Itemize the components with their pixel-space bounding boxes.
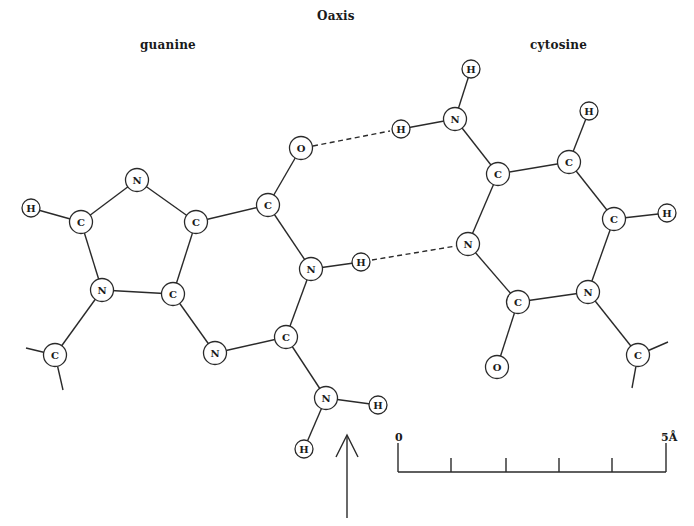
atom-symbol: C bbox=[264, 200, 272, 211]
hydrogen-bonds bbox=[313, 131, 456, 260]
atom-c-c_c2: C bbox=[507, 291, 530, 314]
hbond-h1-n3 bbox=[372, 246, 456, 260]
atom-h-c_h4a: H bbox=[462, 60, 480, 78]
atom-symbol: C bbox=[192, 217, 200, 228]
atom-c-g_c6: C bbox=[257, 194, 280, 217]
atom-symbol: H bbox=[299, 444, 308, 455]
atom-symbol: N bbox=[306, 264, 315, 275]
atom-h-g_h1: H bbox=[352, 253, 370, 271]
scale-end-label: 5Å bbox=[661, 430, 678, 444]
cytosine-label: cytosine bbox=[530, 38, 587, 52]
atom-symbol: N bbox=[583, 287, 592, 298]
atom-symbol: H bbox=[373, 400, 382, 411]
atom-symbol: C bbox=[565, 157, 573, 168]
atom-h-c_h4b: H bbox=[392, 120, 410, 138]
atom-symbol: H bbox=[584, 106, 593, 117]
hbond-o6-h4 bbox=[313, 131, 390, 146]
guanine-atoms: HCNCCONCNHNCNHHC bbox=[22, 137, 387, 459]
atom-c-g_c1p: C bbox=[44, 344, 67, 367]
atom-c-c_c5: C bbox=[558, 151, 581, 174]
atom-symbol: N bbox=[97, 285, 106, 296]
cytosine-atoms: HNHCCHCHNCNOC bbox=[392, 60, 676, 379]
guanine-cytosine-diagram: HCNCCONCNHNCNHHC HNHCCHCHNCNOC 0 5Å bbox=[0, 0, 694, 526]
atom-n-g_n3: N bbox=[204, 342, 227, 365]
atom-symbol: H bbox=[466, 64, 475, 75]
atom-symbol: N bbox=[463, 239, 472, 250]
atom-symbol: H bbox=[396, 124, 405, 135]
atom-h-c_h5: H bbox=[580, 102, 598, 120]
atom-n-g_n1: N bbox=[300, 258, 323, 281]
axis-label: Oaxis bbox=[317, 9, 355, 23]
atom-n-c_n1: N bbox=[577, 281, 600, 304]
atom-n-g_n2: N bbox=[315, 387, 338, 410]
axis-arrow bbox=[336, 435, 358, 518]
atom-c-g_c5: C bbox=[185, 211, 208, 234]
atom-symbol: N bbox=[321, 393, 330, 404]
scale-bar: 0 5Å bbox=[395, 430, 678, 472]
atom-symbol: C bbox=[77, 217, 85, 228]
atom-c-c_c6: C bbox=[603, 208, 626, 231]
atom-c-g_c8: C bbox=[70, 211, 93, 234]
atom-symbol: C bbox=[51, 350, 59, 361]
scale-start-label: 0 bbox=[395, 431, 403, 444]
atom-h-c_h6: H bbox=[658, 204, 676, 222]
atom-symbol: C bbox=[514, 297, 522, 308]
atom-n-g_n9: N bbox=[91, 279, 114, 302]
atom-symbol: O bbox=[493, 362, 502, 373]
atom-symbol: H bbox=[662, 208, 671, 219]
atom-symbol: H bbox=[356, 257, 365, 268]
cytosine-bonds bbox=[401, 69, 668, 388]
atom-o-g_o6: O bbox=[290, 137, 313, 160]
atom-o-c_o2: O bbox=[486, 356, 509, 379]
atom-c-g_c4: C bbox=[162, 283, 185, 306]
atom-n-c_n4: N bbox=[444, 108, 467, 131]
atom-c-g_c2: C bbox=[275, 326, 298, 349]
atom-h-g_h2b: H bbox=[295, 440, 313, 458]
atom-symbol: H bbox=[26, 203, 35, 214]
guanine-label: guanine bbox=[140, 38, 196, 52]
atom-symbol: N bbox=[450, 114, 459, 125]
atom-symbol: C bbox=[282, 332, 290, 343]
atom-symbol: C bbox=[494, 169, 502, 180]
atom-symbol: C bbox=[634, 350, 642, 361]
atom-h-g_h8: H bbox=[22, 199, 40, 217]
atom-symbol: N bbox=[210, 348, 219, 359]
atom-c-c_c4: C bbox=[487, 163, 510, 186]
atom-symbol: C bbox=[610, 214, 618, 225]
atom-symbol: C bbox=[169, 289, 177, 300]
atom-h-g_h2a: H bbox=[369, 396, 387, 414]
atom-symbol: O bbox=[297, 143, 306, 154]
atom-c-c_c1p: C bbox=[627, 344, 650, 367]
atom-symbol: N bbox=[132, 175, 141, 186]
atom-n-c_n3: N bbox=[457, 233, 480, 256]
atom-n-g_n7: N bbox=[126, 169, 149, 192]
